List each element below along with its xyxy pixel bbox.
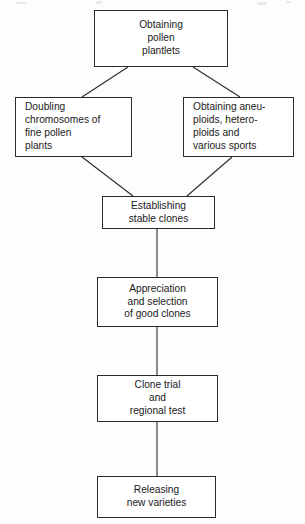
node-appreciation-selection: Appreciation and selection of good clone… (97, 277, 218, 327)
edge-doubling-to-establishing (82, 157, 133, 196)
node-label: Obtaining pollen plantlets (95, 19, 227, 57)
node-obtaining-aneuploids: Obtaining aneu- ploids, hetero- ploids a… (183, 97, 294, 157)
edge-aneuploids-to-establishing (187, 157, 232, 196)
node-label: Releasing new varieties (98, 484, 215, 510)
node-doubling-chromosomes: Doubling chromosomes of fine pollen plan… (15, 97, 132, 157)
node-label: Clone trial and regional test (98, 379, 217, 417)
edge-plantlets-to-doubling (82, 67, 128, 97)
node-releasing-new-varieties: Releasing new varieties (97, 476, 216, 518)
node-clone-trial-regional-test: Clone trial and regional test (97, 375, 218, 422)
node-label: Doubling chromosomes of fine pollen plan… (16, 101, 131, 152)
flowchart-diagram: Obtaining pollen plantlets Doubling chro… (0, 0, 305, 524)
node-label: Establishing stable clones (103, 200, 214, 226)
node-obtaining-pollen-plantlets: Obtaining pollen plantlets (94, 10, 228, 67)
connector-layer (0, 0, 305, 524)
node-label: Obtaining aneu- ploids, hetero- ploids a… (184, 101, 293, 152)
edge-plantlets-to-aneuploids (193, 67, 240, 97)
node-establishing-stable-clones: Establishing stable clones (102, 196, 215, 229)
node-label: Appreciation and selection of good clone… (98, 283, 217, 321)
